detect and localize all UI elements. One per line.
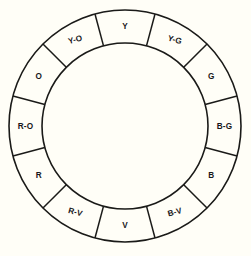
color-wheel-diagram: YY-GGB-GBB-VVR-VRR-OOY-O — [0, 0, 251, 256]
segment-label-yellow: Y — [122, 22, 128, 31]
segment-label-green: G — [208, 72, 214, 81]
segment-label-blue: B — [208, 171, 214, 180]
segment-label-orange: O — [36, 72, 43, 81]
segment-label-blue-green: B-G — [217, 122, 232, 131]
inner-ring-circle — [42, 43, 208, 209]
color-wheel-svg: YY-GGB-GBB-VVR-VRR-OOY-O — [0, 0, 251, 256]
segment-label-red: R — [36, 171, 42, 180]
segment-label-red-orange: R-O — [18, 122, 34, 131]
segment-label-violet: V — [122, 221, 128, 230]
